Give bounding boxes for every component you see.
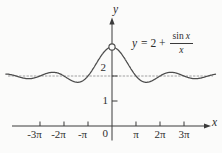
x-tick-label-3pi: 3π	[170, 129, 198, 140]
y-axis-arrow-icon	[109, 18, 114, 25]
fraction-denominator: x	[170, 43, 193, 56]
equation-mid: = 2 +	[141, 37, 165, 49]
fraction-numerator: sin x	[170, 31, 193, 43]
x-tick-label-neg-pi: -π	[69, 129, 97, 140]
y-tick-label-2: 2	[90, 62, 106, 73]
equation-annotation: y = 2 + sin x x	[132, 31, 193, 56]
y-tick-label-1: 1	[92, 95, 108, 106]
numerator-x: x	[186, 31, 190, 42]
y-axis-label: y	[113, 4, 118, 16]
x-axis-label: x	[212, 117, 217, 129]
equation-lhs: y	[132, 37, 137, 49]
open-circle-hole	[109, 44, 115, 50]
origin-label: 0	[98, 128, 108, 139]
x-axis-arrow-icon	[204, 123, 211, 128]
equation-fraction: sin x x	[170, 31, 193, 56]
figure-canvas: y x 0 1 2 -3π -2π -π π 2π 3π y = 2 + sin…	[0, 0, 222, 153]
numerator-sin: sin	[173, 31, 184, 42]
